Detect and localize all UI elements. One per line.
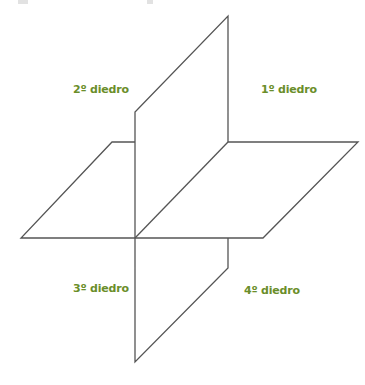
intersection-diagonal (135, 142, 228, 238)
horizontal-plane-left (21, 142, 135, 238)
cropped-text-artifact (18, 0, 28, 4)
cropped-text-artifact (147, 0, 153, 4)
label-third-dihedral: 3º diedro (73, 282, 129, 295)
label-first-dihedral: 1º diedro (261, 83, 317, 96)
label-second-dihedral: 2º diedro (73, 83, 129, 96)
label-fourth-dihedral: 4º diedro (244, 284, 300, 297)
upper-vertical-plane (135, 16, 228, 142)
lower-vertical-plane (135, 238, 228, 362)
planes-drawing (0, 0, 365, 385)
horizontal-plane-right (228, 142, 358, 238)
dihedral-planes-diagram: 2º diedro 1º diedro 3º diedro 4º diedro (0, 0, 365, 385)
